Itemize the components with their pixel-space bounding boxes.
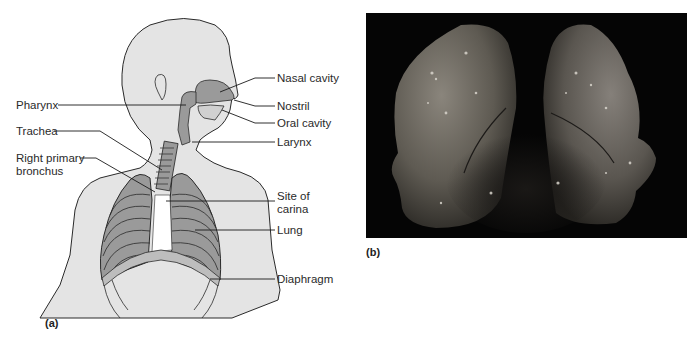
panel-b-tag: (b) [366, 246, 380, 258]
panel-b-lung-photo [366, 13, 687, 238]
label-nostril: Nostril [277, 100, 310, 113]
label-right-primary-bronchus-line1: Right primary [16, 152, 84, 165]
panel-a-tag: (a) [45, 317, 58, 329]
label-lung: Lung [277, 224, 303, 237]
label-oral-cavity: Oral cavity [277, 117, 331, 130]
label-site-of-carina-line1: Site of [277, 190, 310, 203]
label-pharynx: Pharynx [16, 99, 58, 112]
lungs-photograph [366, 13, 687, 238]
label-right-primary-bronchus-line2: bronchus [16, 165, 63, 178]
label-nasal-cavity: Nasal cavity [277, 72, 339, 85]
label-site-of-carina-line2: carina [277, 203, 308, 216]
label-trachea: Trachea [16, 125, 58, 138]
label-larynx: Larynx [277, 136, 312, 149]
label-diaphragm: Diaphragm [277, 273, 333, 286]
panel-a-diagram: Pharynx Trachea Right primary bronchus N… [0, 0, 360, 339]
